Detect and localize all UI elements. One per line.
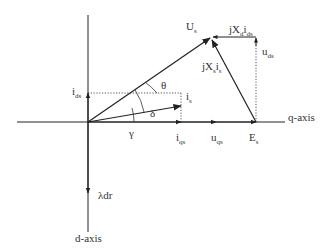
theta-label: θ	[161, 79, 166, 91]
jxd-ids-label: jXdids	[228, 23, 253, 38]
es-label: Es	[249, 131, 259, 146]
us-vector	[88, 38, 210, 122]
is-vector	[88, 106, 181, 122]
is-label: is	[186, 90, 192, 105]
jxs-is-vector	[212, 40, 256, 122]
delta-label: δ	[150, 107, 155, 119]
uds-label: uds	[262, 45, 274, 60]
gamma-arc	[132, 108, 134, 122]
ids-label: ids	[72, 85, 82, 100]
jxs-is-label: jXsis	[201, 60, 222, 75]
uqs-label: uqs	[211, 131, 223, 146]
d-axis-label: d-axis	[75, 232, 102, 244]
q-axis-label: q-axis	[288, 111, 315, 123]
phasor-diagram: Us jXdids uds jXsis ids θ is δ γ q-axis …	[0, 0, 323, 252]
iqs-label: iqs	[176, 131, 186, 146]
theta-arc	[145, 82, 157, 93]
us-label: Us	[186, 20, 197, 35]
lambda-dr-label: λdr	[98, 189, 113, 201]
gamma-label: γ	[128, 127, 134, 139]
